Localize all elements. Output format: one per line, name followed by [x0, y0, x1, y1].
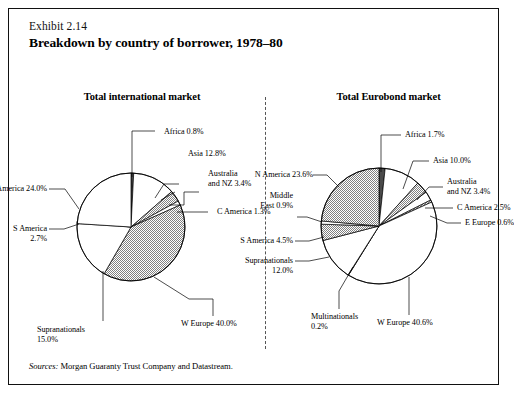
label-multinationals-right: Multinationals 0.2% [311, 312, 358, 332]
label-asia-left: Asia 12.8% [188, 149, 226, 159]
leader-namerica-right [313, 175, 339, 187]
exhibit-frame: Exhibit 2.14 Breakdown by country of bor… [8, 8, 499, 385]
leader-weurope-left [154, 277, 213, 316]
leader-africa-left [132, 131, 155, 177]
source-value: Morgan Guaranty Trust Company and Datast… [58, 361, 232, 371]
label-asia-right: Asia 10.0% [433, 156, 471, 166]
label-weurope-left: W Europe 40.0% [181, 319, 237, 329]
source-label: Sources: [29, 361, 58, 371]
label-africa-left: Africa 0.8% [164, 127, 203, 137]
label-camerica-right: C America 2.5% [457, 203, 511, 213]
leader-samerica-left [49, 224, 79, 229]
label-supranationals-right: Supranationals 12.0% [209, 256, 293, 276]
leader-africa-right [381, 135, 401, 172]
slice-namerica-right[interactable] [321, 168, 379, 226]
label-eeurope-right: E Europe 0.6% [465, 218, 514, 228]
leader-namerica-left [49, 189, 79, 209]
source-note: Sources: Morgan Guaranty Trust Company a… [29, 361, 233, 371]
pie-international [77, 173, 185, 281]
label-australia-right: Australia and NZ 3.4% [447, 177, 490, 197]
label-weurope-right: W Europe 40.6% [377, 318, 433, 328]
label-africa-right: Africa 1.7% [405, 130, 444, 140]
slice-namerica-left[interactable] [77, 173, 131, 227]
label-namerica-left: N America 24.0% [0, 184, 47, 194]
leader-supranationals-right [295, 257, 329, 261]
pie-eurobond [321, 168, 437, 284]
label-samerica-right: S America 4.5% [219, 236, 293, 246]
label-middleeast-right: Middle East 0.9% [227, 191, 293, 211]
label-supranationals-left: Supranationals 15.0% [37, 325, 85, 345]
label-namerica-right: N America 23.6% [237, 170, 313, 180]
label-samerica-left: S America 2.7% [9, 224, 47, 244]
leader-middleeast-right [297, 217, 322, 222]
leader-samerica-right [295, 237, 324, 241]
